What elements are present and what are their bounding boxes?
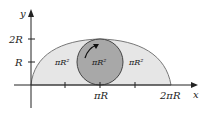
- tick-label-piR: πR: [93, 90, 109, 101]
- x-axis-label: x: [193, 89, 199, 100]
- y-axis-arrow-icon: [28, 9, 34, 17]
- x-axis-arrow-icon: [191, 82, 198, 88]
- tick-label-2piR: 2πR: [159, 90, 181, 101]
- region-label-right: πR²: [128, 58, 144, 67]
- cycloid-diagram: y x 2R R πR 2πR πR² πR² πR²: [0, 0, 209, 117]
- region-label-left: πR²: [54, 58, 70, 67]
- y-axis-label: y: [19, 8, 26, 19]
- tick-label-R: R: [14, 57, 23, 68]
- tick-label-2R: 2R: [8, 34, 23, 45]
- region-label-center: πR²: [91, 58, 107, 67]
